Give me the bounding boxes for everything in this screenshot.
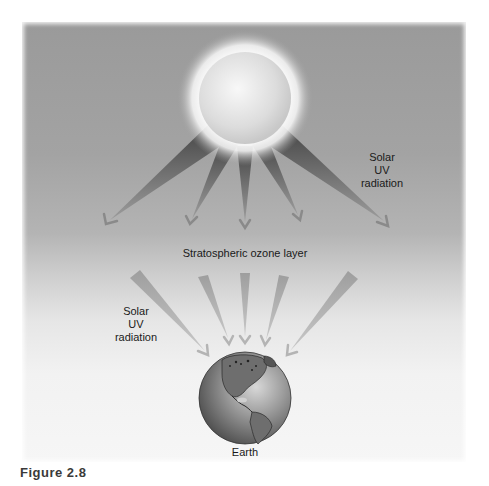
lower-label-line-3: radiation [104, 331, 168, 344]
upper-radiation-label: Solar UV radiation [350, 151, 414, 190]
upper-label-line-2: UV [350, 164, 414, 177]
upper-label-line-1: Solar [350, 151, 414, 164]
earth [199, 352, 291, 444]
lower-label-line-2: UV [104, 318, 168, 331]
lower-ray-5 [290, 271, 358, 351]
sun-icon [199, 52, 291, 144]
lower-ray-3 [240, 273, 250, 337]
figure-caption: Figure 2.8 [20, 465, 86, 480]
ozone-layer-label: Stratospheric ozone layer [160, 247, 330, 260]
upper-label-line-3: radiation [350, 177, 414, 190]
diagram-art [0, 0, 489, 486]
lower-ray-4 [266, 275, 289, 340]
lower-label-line-1: Solar [104, 305, 168, 318]
sun [177, 30, 313, 166]
lower-ray-2 [198, 275, 228, 338]
lower-radiation-label: Solar UV radiation [104, 305, 168, 344]
earth-label: Earth [215, 446, 275, 459]
